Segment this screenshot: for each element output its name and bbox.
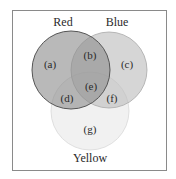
set-label-blue: Blue (106, 15, 129, 29)
venn-diagram: Red Blue Yellow (a) (b) (c) (d) (e) (f) … (0, 0, 176, 179)
region-label-e: (e) (85, 80, 98, 93)
region-label-b: (b) (84, 49, 97, 62)
set-label-red: Red (53, 15, 72, 29)
region-label-a: (a) (44, 58, 57, 71)
set-label-yellow: Yellow (73, 151, 107, 165)
region-label-c: (c) (121, 58, 134, 71)
region-label-d: (d) (61, 92, 74, 105)
region-label-g: (g) (84, 123, 97, 136)
region-label-f: (f) (107, 92, 118, 105)
